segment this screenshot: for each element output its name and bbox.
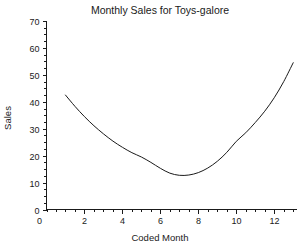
x-axis-label: Coded Month xyxy=(131,232,188,243)
y-tick-label: 60 xyxy=(29,44,39,54)
x-tick-label: 2 xyxy=(82,216,87,226)
y-tick-label: 50 xyxy=(29,71,39,81)
y-tick-label: 0 xyxy=(34,206,39,216)
x-tick-label: 4 xyxy=(120,216,125,226)
y-tick-label: 20 xyxy=(29,152,39,162)
monthly-sales-line-chart: Monthly Sales for Toys-galore Sales Code… xyxy=(0,0,303,247)
x-axis-tick-labels: 246810120 xyxy=(37,216,280,226)
x-tick-label: 8 xyxy=(196,216,201,226)
x-tick-label: 10 xyxy=(231,216,241,226)
y-tick-label: 40 xyxy=(29,98,39,108)
y-tick-label: 10 xyxy=(29,179,39,189)
chart-title: Monthly Sales for Toys-galore xyxy=(91,4,229,16)
y-axis-label: Sales xyxy=(2,106,13,130)
y-tick-label: 30 xyxy=(29,125,39,135)
y-axis-tick-labels: 010203040506070 xyxy=(29,17,39,216)
data-series-sales xyxy=(65,63,293,176)
x-tick-label: 6 xyxy=(158,216,163,226)
chart-container: Monthly Sales for Toys-galore Sales Code… xyxy=(0,0,303,247)
x-origin-label: 0 xyxy=(37,216,42,226)
x-tick-label: 12 xyxy=(269,216,279,226)
y-tick-label: 70 xyxy=(29,17,39,27)
